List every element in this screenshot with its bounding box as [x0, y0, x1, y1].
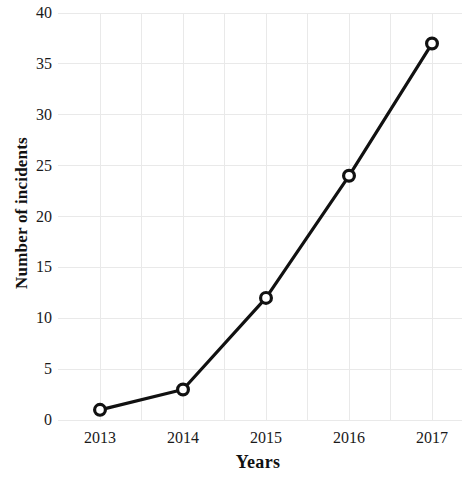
data-point-marker	[427, 38, 438, 49]
plot-svg	[0, 0, 469, 479]
gridlines	[58, 13, 462, 420]
line-chart: Number of incidents Years 05101520253035…	[0, 0, 469, 479]
plot-area	[0, 0, 469, 479]
data-point-marker	[178, 384, 189, 395]
data-point-marker	[95, 404, 106, 415]
data-point-marker	[261, 293, 272, 304]
data-point-marker	[344, 170, 355, 181]
